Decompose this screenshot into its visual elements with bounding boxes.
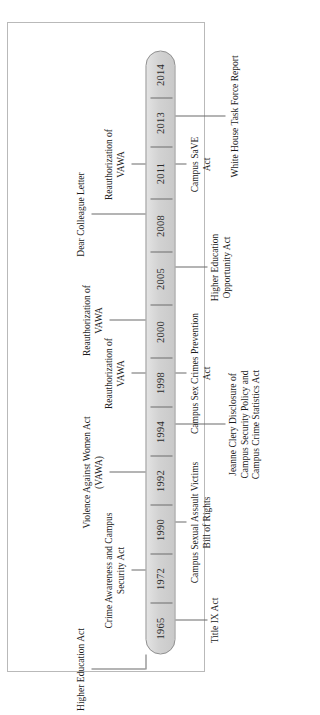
event-label-reauthorization-of-vawa-2005: Reauthorization of VAWA <box>82 272 105 368</box>
timeline-segment-1972: 1972 <box>147 554 175 603</box>
connector-1972 <box>176 619 208 620</box>
timeline-segment-2005: 2005 <box>147 252 175 305</box>
event-label-crime-awareness-and-campus-security-act: Crime Awareness and Campus Security Act <box>104 505 127 635</box>
event-label-reauthorization-of-vawa-2013: Reauthorization of VAWA <box>104 116 127 212</box>
year-label: 1965 <box>155 617 166 639</box>
timeline-segment-2014: 2014 <box>147 51 175 98</box>
event-label-higher-education-opportunity-act: Higher Education Opportunity Act <box>210 212 233 322</box>
connector-1965 <box>92 668 146 669</box>
timeline-segment-2011: 2011 <box>147 147 175 199</box>
event-label-campus-save-act: Campus SaVE Act <box>190 124 213 204</box>
connector-2005 <box>110 319 146 320</box>
year-label: 1992 <box>155 470 166 492</box>
connector-2008 <box>176 266 208 267</box>
event-label-reauthorization-of-vawa-2000: Reauthorization of VAWA <box>104 325 127 421</box>
event-label-dear-colleague-letter: Dear Colleague Letter <box>76 154 88 274</box>
timeline-segment-1998: 1998 <box>147 358 175 407</box>
year-label: 2008 <box>155 215 166 237</box>
year-label: 1990 <box>155 519 166 541</box>
timeline-segment-1994: 1994 <box>147 407 175 456</box>
event-label-violence-against-women-act: Violence Against Women Act (VAWA) <box>82 402 105 542</box>
timeline-bar: 1965 1972 1990 1992 1994 1998 2000 2005 <box>146 50 176 654</box>
year-label: 1972 <box>155 568 166 590</box>
connector-1992 <box>176 521 187 522</box>
connector-2013-above <box>132 163 146 164</box>
timeline-segment-2013: 2013 <box>147 98 175 147</box>
timeline-segment-1990: 1990 <box>147 505 175 554</box>
timeline-segment-1992: 1992 <box>147 456 175 505</box>
year-label: 1998 <box>155 372 166 394</box>
timeline-segment-1965: 1965 <box>147 603 175 653</box>
year-label: 2005 <box>155 268 166 290</box>
year-label: 2011 <box>155 162 166 183</box>
connector-2000-below <box>176 372 187 373</box>
year-label: 2013 <box>155 112 166 134</box>
year-label: 1994 <box>155 421 166 443</box>
timeline-segment-2000: 2000 <box>147 305 175 358</box>
event-label-higher-education-act: Higher Education Act <box>76 609 88 715</box>
connector-1994 <box>110 471 146 472</box>
timeline-segment-2008: 2008 <box>147 199 175 252</box>
connector-1965-stem <box>146 654 147 669</box>
timeline-figure: 1965 1972 1990 1992 1994 1998 2000 2005 <box>54 0 267 694</box>
connector-2013-below <box>176 163 187 164</box>
event-label-white-house-task-force-report: White House Task Force Report <box>230 36 242 196</box>
connector-2014 <box>176 115 226 116</box>
year-label: 2000 <box>155 321 166 343</box>
connector-1990 <box>132 569 146 570</box>
connector-2011 <box>92 213 146 214</box>
connector-2000-above <box>132 372 146 373</box>
year-label: 2014 <box>155 64 166 86</box>
event-label-jeanne-clery-disclosure-act: Jeanne Clery Disclosure of Campus Securi… <box>228 359 263 489</box>
event-label-campus-sexual-assault-victims-bill-of-rights: Campus Sexual Assault Victims Bill of Ri… <box>190 447 213 597</box>
